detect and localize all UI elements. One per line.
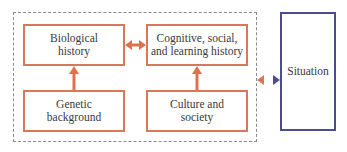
node-label: Biological history: [50, 32, 98, 58]
node-situation: Situation: [280, 12, 336, 131]
node-label: Genetic background: [47, 98, 101, 124]
node-genetic-background: Genetic background: [23, 90, 125, 132]
bidirectional-arrow-icon: [257, 75, 280, 85]
node-label: Culture and society: [170, 98, 224, 124]
node-cognitive-social-learning-history: Cognitive, social, and learning history: [146, 24, 248, 66]
node-biological-history: Biological history: [23, 24, 125, 66]
node-label: Cognitive, social, and learning history: [151, 32, 243, 58]
node-label: Situation: [287, 65, 329, 78]
node-culture-and-society: Culture and society: [146, 90, 248, 132]
